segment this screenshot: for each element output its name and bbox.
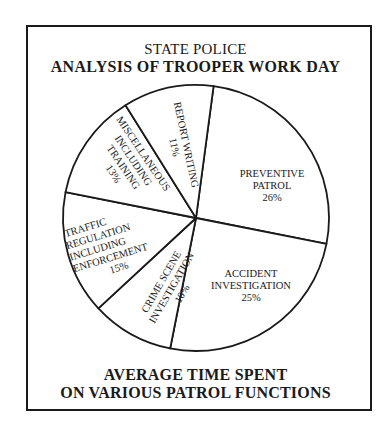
label-line: PATROL (222, 180, 322, 192)
label-percent: 26% (222, 192, 322, 204)
label-percent: 25% (196, 292, 306, 304)
label-line: ACCIDENT (196, 268, 306, 280)
label-preventive-patrol: PREVENTIVE PATROL 26% (222, 168, 322, 204)
chart-caption-line1: AVERAGE TIME SPENT (0, 366, 391, 384)
chart-caption-line2: ON VARIOUS PATROL FUNCTIONS (0, 384, 391, 402)
label-line: PREVENTIVE (222, 168, 322, 180)
pie-slice-preventive-patrol (196, 86, 329, 244)
label-line: INVESTIGATION (196, 280, 306, 292)
label-accident-investigation: ACCIDENT INVESTIGATION 25% (196, 268, 306, 304)
